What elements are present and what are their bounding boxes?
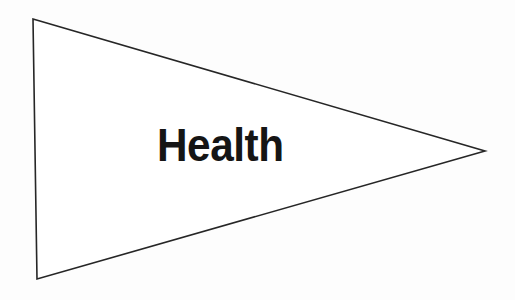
shape-label-health: Health — [157, 120, 284, 170]
diagram-canvas: Health — [0, 0, 515, 300]
